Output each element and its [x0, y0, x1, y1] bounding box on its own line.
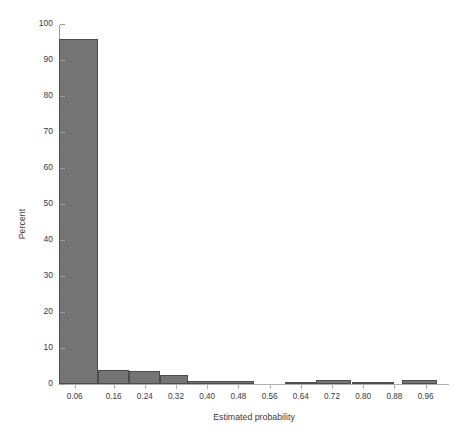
x-axis-tick: 0.32 — [176, 384, 177, 385]
x-axis-tick-label: 0.16 — [106, 391, 122, 402]
y-axis-tick-mark — [60, 60, 65, 61]
y-axis-title: Percent — [14, 0, 30, 447]
histogram-bar — [402, 380, 437, 384]
x-axis-tick-label: 0.72 — [324, 391, 340, 402]
histogram-bar — [352, 382, 395, 384]
x-axis-tick: 0.24 — [145, 384, 146, 385]
y-axis-tick-mark — [60, 168, 65, 169]
y-axis-tick: 40 — [59, 240, 65, 241]
y-axis-tick: 90 — [59, 60, 65, 61]
y-axis-tick-label: 40 — [44, 234, 53, 245]
histogram-bar — [160, 375, 187, 384]
x-axis-tick-label: 0.48 — [230, 391, 246, 402]
y-axis-tick: 20 — [59, 312, 65, 313]
y-axis-tick: 30 — [59, 276, 65, 277]
x-axis-tick: 0.72 — [332, 384, 333, 385]
histogram-figure: Percent 0102030405060708090100 0.060.160… — [0, 0, 463, 447]
x-axis-tick-mark — [332, 385, 333, 389]
y-axis-tick: 10 — [59, 348, 65, 349]
y-axis-tick-label: 50 — [44, 198, 53, 209]
y-axis-tick-label: 10 — [44, 342, 53, 353]
x-axis-tick: 0.40 — [207, 384, 208, 385]
x-axis-tick-mark — [394, 385, 395, 389]
plot-area: 0102030405060708090100 0.060.160.240.320… — [59, 25, 449, 385]
y-axis-tick-label: 70 — [44, 126, 53, 137]
x-axis-tick: 0.88 — [394, 384, 395, 385]
y-axis-tick-label: 20 — [44, 306, 53, 317]
x-axis-tick-mark — [426, 385, 427, 389]
x-axis-tick-mark — [114, 385, 115, 389]
x-axis-tick: 0.16 — [114, 384, 115, 385]
y-axis-tick: 60 — [59, 168, 65, 169]
y-axis-tick-mark — [60, 24, 65, 25]
y-axis-tick-label: 0 — [48, 378, 53, 389]
x-axis-tick-mark — [363, 385, 364, 389]
x-axis-tick: 0.48 — [238, 384, 239, 385]
x-axis-spine — [59, 384, 449, 385]
histogram-bar — [59, 39, 98, 384]
x-axis-tick-label: 0.96 — [418, 391, 434, 402]
histogram-bar — [316, 380, 351, 384]
histogram-bar — [188, 381, 254, 384]
x-axis-title: Estimated probability — [59, 412, 449, 422]
x-axis-tick-mark — [301, 385, 302, 389]
y-axis-tick: 100 — [59, 24, 65, 25]
y-axis-tick: 80 — [59, 96, 65, 97]
y-axis-tick-label: 60 — [44, 162, 53, 173]
x-axis-tick-label: 0.56 — [262, 391, 278, 402]
y-axis-tick-label: 30 — [44, 270, 53, 281]
y-axis-tick-label: 80 — [44, 90, 53, 101]
y-axis-title-text: Percent — [17, 208, 27, 239]
x-axis-tick-mark — [207, 385, 208, 389]
x-axis-tick-label: 0.24 — [137, 391, 153, 402]
x-axis-tick-mark — [145, 385, 146, 389]
x-axis-tick-label: 0.88 — [386, 391, 402, 402]
x-axis-tick-label: 0.80 — [355, 391, 371, 402]
y-axis-tick: 50 — [59, 204, 65, 205]
y-axis-tick-mark — [60, 384, 65, 385]
x-axis-tick-mark — [270, 385, 271, 389]
y-axis-tick-label: 100 — [39, 18, 53, 29]
x-axis-tick: 0.56 — [270, 384, 271, 385]
y-axis-tick: 0 — [59, 384, 65, 385]
x-axis-tick-label: 0.06 — [67, 391, 83, 402]
x-axis-title-text: Estimated probability — [213, 412, 295, 422]
y-axis-tick-mark — [60, 96, 65, 97]
histogram-bar — [98, 370, 129, 384]
x-axis-tick: 0.96 — [426, 384, 427, 385]
x-axis-tick: 0.06 — [75, 384, 76, 385]
y-axis-tick-mark — [60, 132, 65, 133]
y-axis-tick-label: 90 — [44, 54, 53, 65]
y-axis-tick-mark — [60, 312, 65, 313]
x-axis-tick-mark — [75, 385, 76, 389]
y-axis-tick-mark — [60, 276, 65, 277]
y-axis-tick: 70 — [59, 132, 65, 133]
x-axis-tick-mark — [176, 385, 177, 389]
y-axis-tick-mark — [60, 240, 65, 241]
x-axis-tick-label: 0.32 — [168, 391, 184, 402]
x-axis-tick-mark — [238, 385, 239, 389]
x-axis-tick: 0.64 — [301, 384, 302, 385]
y-axis-tick-mark — [60, 348, 65, 349]
x-axis-tick-label: 0.40 — [199, 391, 215, 402]
histogram-bar — [129, 371, 160, 384]
x-axis-tick: 0.80 — [363, 384, 364, 385]
x-axis-tick-label: 0.64 — [293, 391, 309, 402]
y-axis-tick-mark — [60, 204, 65, 205]
